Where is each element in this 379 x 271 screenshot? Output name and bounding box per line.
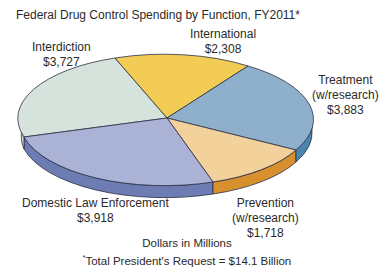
label-prevention: Prevention (w/research) $1,718 [232, 196, 299, 241]
label-international: International $2,308 [190, 27, 256, 57]
footnote: *Total President's Request = $14.1 Billi… [0, 254, 374, 267]
units-label: Dollars in Millions [0, 237, 374, 249]
label-domestic: Domestic Law Enforcement $3,918 [22, 196, 169, 226]
label-interdiction: Interdiction $3,727 [32, 40, 91, 70]
label-treatment: Treatment (w/research) $3,883 [312, 73, 379, 118]
